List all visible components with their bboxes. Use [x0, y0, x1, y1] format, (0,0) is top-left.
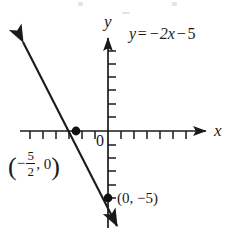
equation-constant: 5	[187, 25, 195, 42]
graph-figure: y x 0 y = −2x − 5 ( − 5 2 , 0 ) (0, −5)	[0, 0, 245, 238]
equation-equals: =	[138, 25, 147, 42]
x-intercept-label: ( − 5 2 , 0 )	[8, 150, 60, 180]
equation-slope-term: −2x	[149, 25, 176, 42]
x-intercept-open-paren: (	[8, 156, 17, 177]
fraction-five-halves: 5 2	[26, 149, 35, 179]
equation-minus: −	[177, 25, 186, 42]
y-intercept-label: (0, −5)	[117, 191, 158, 206]
x-axis-ticks-negative	[30, 131, 95, 139]
point-y-intercept	[104, 194, 113, 203]
y-axis-label: y	[104, 13, 112, 30]
point-x-intercept	[72, 127, 81, 136]
x-axis-ticks-positive	[121, 131, 186, 139]
x-axis-label: x	[214, 122, 222, 139]
equation-label: y = −2x − 5	[129, 26, 196, 42]
x-intercept-rest: , 0	[36, 157, 51, 172]
x-intercept-minus: −	[17, 156, 25, 171]
origin-label: 0	[96, 133, 104, 149]
fraction-denominator: 2	[26, 165, 35, 178]
y-axis-ticks-positive	[108, 51, 116, 117]
y-axis-ticks-negative	[108, 145, 116, 198]
x-intercept-close-paren: )	[51, 156, 60, 177]
x-axis	[20, 131, 206, 139]
fraction-numerator: 5	[26, 149, 35, 162]
